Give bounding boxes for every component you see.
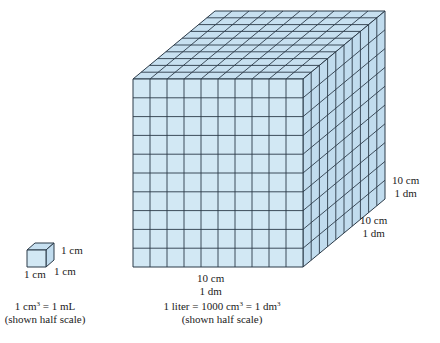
ml-scale-note: (shown half scale) — [0, 313, 90, 326]
small-cube-1-cm3 — [27, 243, 54, 267]
small-cube-depth-label: 1 cm — [54, 265, 76, 278]
height-cm: 10 cm — [392, 174, 419, 187]
height-dm: 1 dm — [392, 187, 419, 200]
large-cube-width-dim: 10 cm 1 dm — [197, 272, 224, 298]
width-cm: 10 cm — [197, 272, 224, 285]
liter-equation: 1 liter = 1000 cm3 = 1 dm3 — [146, 300, 298, 313]
large-cube-1-liter — [133, 11, 385, 267]
front-face — [27, 250, 46, 267]
width-dm: 1 dm — [197, 285, 224, 298]
small-cube-caption: 1 cm3 = 1 mL (shown half scale) — [0, 300, 90, 326]
large-cube-height-label: 10 cm 1 dm — [392, 174, 419, 200]
small-cube-width-label: 1 cm — [24, 268, 46, 281]
liter-scale-note: (shown half scale) — [146, 313, 298, 326]
large-cube-depth-dim: 10 cm 1 dm — [360, 214, 387, 240]
large-cube-caption: 1 liter = 1000 cm3 = 1 dm3 (shown half s… — [146, 300, 298, 326]
depth-dm: 1 dm — [360, 227, 387, 240]
ml-equation: 1 cm3 = 1 mL — [0, 300, 90, 313]
depth-cm: 10 cm — [360, 214, 387, 227]
small-cube-height-label: 1 cm — [61, 244, 83, 257]
